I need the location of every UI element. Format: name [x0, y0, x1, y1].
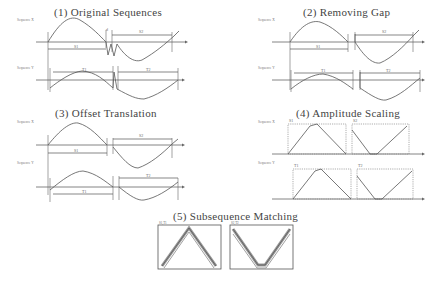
panel-removing-gap: (2) Removing Gap Sequence X Sequence Y S… [220, 0, 441, 110]
original-sequences-plot: S2 S1 d T1 T2 [0, 0, 220, 110]
svg-text:S1: S1 [316, 44, 320, 49]
svg-text:S2: S2 [139, 29, 143, 34]
panel-amplitude-scaling: (4) Amplitude Scaling Sequence X Sequenc… [220, 110, 441, 210]
panel-subsequence-matching: (5) Subsequence Matching S1,T1 S2,T2 [140, 210, 310, 281]
svg-text:S2: S2 [353, 118, 357, 123]
offset-translation-plot: S2 S1 T1 T2 [0, 110, 220, 210]
svg-text:S2: S2 [139, 133, 143, 138]
svg-text:T1: T1 [82, 67, 86, 72]
svg-text:T2: T2 [146, 67, 150, 72]
svg-text:T2: T2 [146, 173, 150, 178]
svg-text:T2: T2 [386, 68, 390, 73]
svg-text:S1: S1 [74, 148, 78, 153]
panel-offset-translation: (3) Offset Translation Sequence X Sequen… [0, 110, 220, 210]
removing-gap-plot: S2 S1 T1 T2 [220, 0, 441, 110]
svg-text:d: d [106, 27, 108, 32]
svg-text:T1: T1 [321, 68, 325, 73]
svg-text:S2: S2 [382, 29, 386, 34]
svg-text:T1: T1 [294, 163, 298, 168]
svg-text:S1: S1 [289, 118, 293, 123]
svg-text:S1: S1 [74, 44, 78, 49]
panel-original-sequences: (1) Original Sequences Sequence X Sequen… [0, 0, 220, 110]
svg-text:T1: T1 [82, 189, 86, 194]
svg-text:T2: T2 [358, 163, 362, 168]
subsequence-matching-plot: S1,T1 S2,T2 [140, 210, 310, 281]
amplitude-scaling-plot: S1 S2 T1 T2 [220, 110, 441, 210]
